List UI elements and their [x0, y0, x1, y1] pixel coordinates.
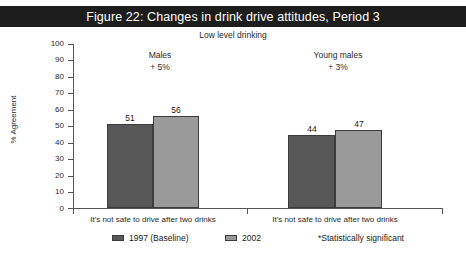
bar-young-males-1997 [288, 135, 335, 208]
bar-value-young-males-1997: 44 [288, 124, 336, 134]
y-tick-label-80: 80 [38, 73, 64, 81]
legend-label-1997: 1997 (Baseline) [129, 233, 189, 243]
y-tick-label-100: 100 [38, 40, 64, 48]
bar-males-1997 [107, 124, 153, 208]
bar-males-2002 [153, 116, 199, 208]
group-change-young-males: + 3% [268, 61, 408, 73]
y-tick-label-30: 30 [38, 155, 64, 163]
y-tick-label-50: 50 [38, 122, 64, 130]
group-label-young-males: Young males [268, 49, 408, 61]
chart-subtitle: Low level drinking [0, 30, 466, 40]
group-annotation-males: Males + 5% [90, 49, 230, 73]
bar-value-males-2002: 56 [152, 105, 200, 115]
legend-item-2002: 2002 [225, 233, 261, 243]
x-tick-mark-right-edge [442, 209, 443, 214]
group-annotation-young-males: Young males + 3% [268, 49, 408, 73]
y-axis-title: % Agreement [9, 75, 18, 165]
figure-title: Figure 22: Changes in drink drive attitu… [86, 10, 380, 24]
y-tick-label-0: 0 [38, 205, 64, 213]
bar-value-young-males-2002: 47 [335, 119, 383, 129]
y-axis-line [73, 44, 74, 209]
figure-title-banner: Figure 22: Changes in drink drive attitu… [0, 6, 466, 27]
x-tick-mark-group-divider [247, 209, 248, 214]
legend-label-2002: 2002 [242, 233, 261, 243]
group-label-males: Males [90, 49, 230, 61]
legend-swatch-2002 [225, 235, 237, 241]
legend-item-1997: 1997 (Baseline) [112, 233, 189, 243]
x-tick-mark-left-edge [73, 209, 74, 214]
bar-young-males-2002 [335, 130, 382, 208]
category-label-males: It's not safe to drive after two drinks [53, 215, 253, 224]
y-tick-label-10: 10 [38, 188, 64, 196]
legend-swatch-1997 [112, 235, 124, 241]
y-tick-label-90: 90 [38, 56, 64, 64]
group-change-males: + 5% [90, 61, 230, 73]
y-tick-label-40: 40 [38, 139, 64, 147]
chart-figure: Low level drinking % Agreement 100 90 80… [0, 27, 466, 263]
chart-footnote: *Statistically significant [318, 233, 404, 243]
y-tick-label-70: 70 [38, 89, 64, 97]
bar-value-males-1997: 51 [106, 113, 154, 123]
x-axis-line [73, 208, 443, 209]
y-tick-label-20: 20 [38, 172, 64, 180]
y-tick-label-60: 60 [38, 106, 64, 114]
category-label-young-males: It's not safe to drive after two drinks [235, 215, 435, 224]
